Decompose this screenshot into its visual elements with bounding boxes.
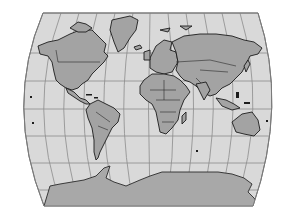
world-map-svg [0, 0, 296, 219]
land-new-zealand [270, 136, 278, 148]
land-british-isles [144, 50, 150, 60]
world-map [0, 0, 296, 219]
